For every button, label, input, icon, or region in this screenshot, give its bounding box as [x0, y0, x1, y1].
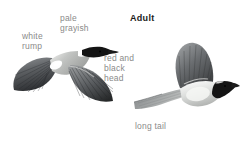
- bill: [231, 83, 240, 88]
- bird-illustration-plate: pale grayish white rump Adult red and bl…: [0, 0, 249, 144]
- eye: [99, 51, 101, 53]
- label-pale-grayish: pale grayish: [60, 13, 89, 33]
- bird-flying-side-figure: [132, 40, 240, 122]
- label-red-and-black-head: red and black head: [104, 53, 134, 83]
- label-white-rump: white rump: [22, 31, 43, 51]
- heading-adult: Adult: [130, 13, 155, 23]
- label-long-tail: long tail: [135, 121, 166, 131]
- eye: [224, 85, 226, 87]
